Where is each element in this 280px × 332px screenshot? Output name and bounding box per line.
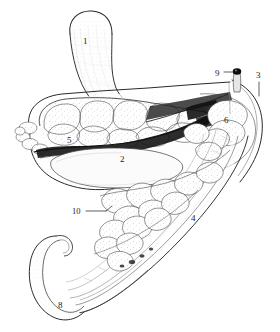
figure-linework <box>0 0 280 332</box>
label-callout-8: 8 <box>58 301 63 310</box>
label-callout-9: 9 <box>215 69 220 78</box>
label-callout-4: 4 <box>191 214 196 223</box>
anatomical-figure: 1 2 3 4 5 6 8 9 10 <box>0 0 280 332</box>
label-callout-1: 1 <box>83 37 88 46</box>
label-callout-5: 5 <box>67 136 72 145</box>
label-callout-10: 10 <box>72 207 81 216</box>
label-callout-3: 3 <box>256 71 261 80</box>
label-callout-6: 6 <box>224 116 229 125</box>
label-callout-2: 2 <box>120 155 125 164</box>
